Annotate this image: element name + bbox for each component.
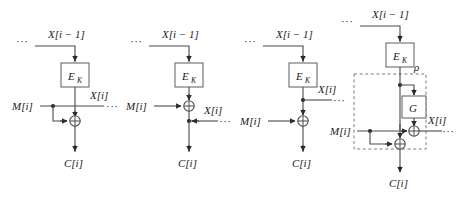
cipher-label-p3: C[i] [292, 157, 311, 169]
xor-gate-p1 [70, 116, 80, 126]
ek-box-p1 [61, 63, 89, 87]
panel-variant-c: ··· X[i − 1] E K X[i] ··· M[i] C[i] [239, 28, 346, 169]
ek-box-label-p1: E [67, 70, 75, 82]
message-label-p4: M[i] [329, 125, 351, 137]
cipher-mode-diagram-canvas: ··· X[i − 1] E K M[i] X[i] ··· C[i] [0, 0, 457, 199]
panel-variant-a: ··· X[i − 1] E K M[i] X[i] ··· C[i] [11, 28, 119, 169]
message-label-p2: M[i] [125, 100, 147, 112]
ellipsis-right-p4: ··· [442, 125, 455, 137]
ek-box-p4 [386, 43, 414, 67]
ek-box-label-p4: E [392, 50, 400, 62]
xor-gate-p3 [298, 116, 308, 126]
x-prev-wire-p3 [263, 46, 303, 62]
x-prev-wire-p1 [35, 46, 75, 62]
ellipsis-right-p3: ··· [333, 94, 346, 106]
xor-gate-upper-p4 [409, 126, 419, 136]
ek-box-sub-p1: K [76, 76, 83, 85]
xor-gate-p2 [184, 101, 194, 111]
xor-gate-lower-p4 [395, 139, 405, 149]
x-prev-wire-p2 [149, 46, 189, 62]
g-box-label: G [409, 102, 417, 114]
ek-box-label-p2: E [181, 70, 189, 82]
g-in-wire [400, 85, 414, 95]
cipher-label-p4: C[i] [389, 177, 408, 189]
ellipsis-right-p2: ··· [219, 115, 232, 127]
ellipsis-left-p3: ··· [244, 35, 257, 47]
ek-box-sub-p2: K [190, 76, 197, 85]
message-label-p1: M[i] [11, 100, 33, 112]
message-branch-p4 [370, 131, 392, 144]
message-branch-p1 [53, 106, 67, 121]
ek-box-p3 [289, 63, 317, 87]
ellipsis-left-p1: ··· [16, 35, 29, 47]
x-prev-label-p4: X[i − 1] [371, 8, 409, 20]
cipher-label-p2: C[i] [178, 157, 197, 169]
x-prev-label-p2: X[i − 1] [161, 28, 199, 40]
ek-box-label-p3: E [295, 70, 303, 82]
ek-box-sub-p4: K [401, 56, 408, 65]
panel-variant-rho: ··· X[i − 1] E K ρ G M[i] X[i] [329, 8, 455, 189]
cipher-label-p1: C[i] [64, 157, 83, 169]
x-prev-label-p1: X[i − 1] [47, 28, 85, 40]
panel-variant-b: ··· X[i − 1] E K M[i] X[i] ··· C[i] [125, 28, 232, 169]
x-prev-wire-p4 [360, 26, 400, 42]
ellipsis-right-p1: ··· [106, 100, 119, 112]
message-label-p3: M[i] [239, 115, 261, 127]
ek-box-p2 [175, 63, 203, 87]
x-prev-label-p3: X[i − 1] [275, 28, 313, 40]
ellipsis-left-p4: ··· [341, 15, 354, 27]
rho-label: ρ [413, 61, 419, 73]
ek-box-sub-p3: K [304, 76, 311, 85]
ellipsis-left-p2: ··· [130, 35, 143, 47]
